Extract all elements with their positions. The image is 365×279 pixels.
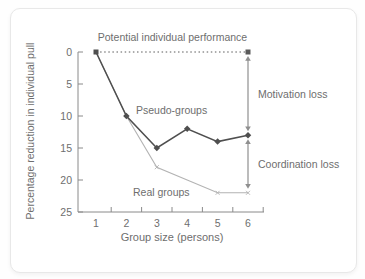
motivation-loss-label: Motivation loss: [258, 88, 327, 100]
x-tick-label: 4: [177, 217, 197, 229]
x-tick-label: 1: [86, 217, 106, 229]
y-tick-label: 10: [48, 110, 72, 122]
potential-individual-performance-label: Potential individual performance: [95, 31, 250, 43]
pseudo-groups-label: Pseudo-groups: [136, 104, 207, 116]
real-groups-label: Real groups: [133, 186, 190, 198]
x-tick-label: 2: [116, 217, 136, 229]
figure-stage: Percentage reduction in individual pull …: [0, 0, 365, 279]
x-tick-label: 3: [147, 217, 167, 229]
y-tick-label: 15: [48, 142, 72, 154]
x-axis-title: Group size (persons): [92, 231, 252, 243]
x-tick-label: 5: [208, 217, 228, 229]
x-tick-label: 6: [238, 217, 258, 229]
y-axis-title: Percentage reduction in individual pull: [24, 43, 36, 220]
y-tick-label: 0: [48, 46, 72, 58]
y-tick-label: 20: [48, 174, 72, 186]
y-tick-label: 25: [48, 206, 72, 218]
y-tick-label: 5: [48, 78, 72, 90]
chart-layer: Percentage reduction in individual pull …: [0, 0, 365, 279]
coordination-loss-label: Coordination loss: [258, 158, 339, 170]
